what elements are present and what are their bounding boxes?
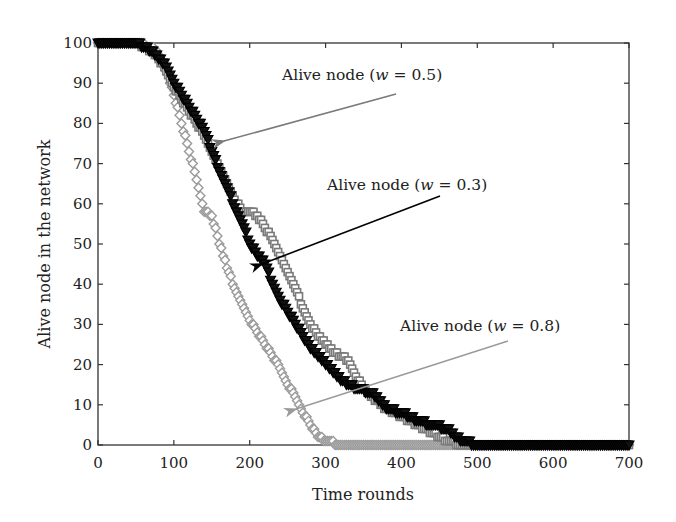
y-tick-label: 90 — [73, 74, 92, 92]
x-tick-label: 300 — [311, 454, 340, 472]
y-tick-label: 20 — [73, 356, 92, 374]
x-tick-label: 400 — [387, 454, 416, 472]
x-axis-title: Time rounds — [312, 485, 414, 504]
y-tick-label: 50 — [73, 235, 92, 253]
svg-text:Alive node (w = 0.3): Alive node (w = 0.3) — [326, 176, 487, 194]
svg-text:Alive node (w = 0.5): Alive node (w = 0.5) — [281, 66, 442, 84]
x-tick-label: 0 — [93, 454, 103, 472]
x-tick-label: 100 — [160, 454, 189, 472]
y-tick-label: 0 — [82, 436, 92, 454]
series-layer — [93, 39, 634, 451]
y-axis-title: Alive node in the network — [35, 139, 54, 349]
x-tick-label: 500 — [463, 454, 492, 472]
y-tick-label: 40 — [73, 275, 92, 293]
annotation-w05: Alive node (w = 0.5) — [224, 66, 442, 141]
y-tick-label: 30 — [73, 315, 92, 333]
x-tick-label: 200 — [235, 454, 264, 472]
x-tick-label: 700 — [615, 454, 644, 472]
alive-node-chart: 0100200300400500600700010203040506070809… — [0, 0, 676, 522]
annotation-w08: Alive node (w = 0.8) — [296, 317, 560, 409]
y-tick-label: 80 — [73, 114, 92, 132]
axis-ticks: 0100200300400500600700010203040506070809… — [63, 34, 643, 472]
svg-text:Alive node (w = 0.8): Alive node (w = 0.8) — [399, 317, 560, 335]
y-tick-label: 100 — [63, 34, 92, 52]
annotation-w03: Alive node (w = 0.3) — [262, 176, 487, 264]
y-tick-label: 70 — [73, 155, 92, 173]
y-tick-label: 10 — [73, 396, 92, 414]
x-tick-label: 600 — [539, 454, 568, 472]
y-tick-label: 60 — [73, 195, 92, 213]
